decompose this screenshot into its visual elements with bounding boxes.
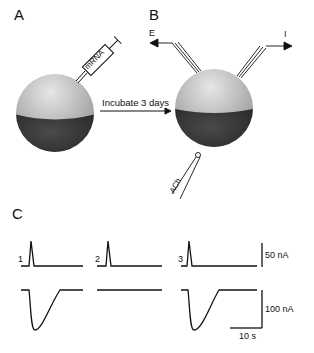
electrode-e (150, 39, 201, 73)
trial-label-2: 2 (95, 255, 100, 264)
oocyte-sphere-a (10, 70, 100, 160)
trial-label-3: 3 (178, 255, 183, 264)
oocyte-sphere-b (170, 65, 260, 155)
incubate-label: Incubate 3 days (102, 98, 169, 108)
traces-top (21, 241, 262, 267)
scale-100na: 100 nA (265, 305, 294, 314)
figure-canvas (0, 0, 314, 353)
electrode-i (237, 42, 292, 78)
electrode-e-label: E (149, 29, 155, 38)
panel-label-c: C (12, 206, 23, 221)
panel-label-a: A (14, 7, 24, 22)
trial-label-1: 1 (18, 255, 23, 264)
electrode-i-label: I (284, 30, 287, 39)
panel-label-b: B (149, 7, 159, 22)
incubate-arrow (100, 108, 171, 114)
scale-10s: 10 s (239, 332, 256, 341)
scale-50na: 50 nA (265, 251, 289, 260)
traces-bottom (21, 290, 262, 330)
